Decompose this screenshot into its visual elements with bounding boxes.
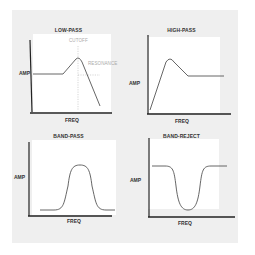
bandreject-chart: BAND-REJECT AMP FREQ [125,128,238,244]
lowpass-chart: LOW-PASS CUTOFF RESONANCE AMP FREQ [12,10,125,126]
bandreject-curve [125,128,238,244]
bandpass-chart: BAND-PASS AMP FREQ [12,128,125,244]
highpass-curve [125,10,238,126]
bandpass-curve [12,128,125,244]
highpass-chart: HIGH-PASS AMP FREQ [125,10,238,126]
lowpass-curve [12,10,125,126]
